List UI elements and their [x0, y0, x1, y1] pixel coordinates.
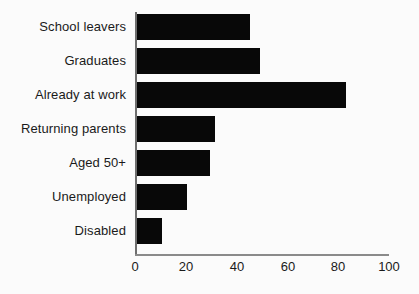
bar-row: Graduates [0, 48, 419, 74]
bar-row: School leavers [0, 14, 419, 40]
bar-already-at-work [137, 82, 346, 108]
bar-row: Returning parents [0, 116, 419, 142]
bar-graduates [137, 48, 260, 74]
x-axis-ticks: 0 20 40 60 80 100 [0, 258, 419, 280]
x-tick-label: 20 [163, 258, 209, 276]
bar-school-leavers [137, 14, 250, 40]
x-tick-label: 40 [214, 258, 260, 276]
bar-row: Already at work [0, 82, 419, 108]
category-label-aged-50-plus: Aged 50+ [0, 150, 126, 176]
bar-chart: School leavers Graduates Already at work… [0, 0, 419, 294]
x-tick-label: 0 [112, 258, 158, 276]
bar-row: Unemployed [0, 184, 419, 210]
bar-aged-50-plus [137, 150, 210, 176]
bar-row: Disabled [0, 218, 419, 244]
bar-returning-parents [137, 116, 215, 142]
bar-unemployed [137, 184, 187, 210]
category-label-school-leavers: School leavers [0, 14, 126, 40]
x-tick-label: 60 [265, 258, 311, 276]
category-label-already-at-work: Already at work [0, 82, 126, 108]
category-label-unemployed: Unemployed [0, 184, 126, 210]
x-tick-label: 80 [315, 258, 361, 276]
bars-layer: School leavers Graduates Already at work… [0, 0, 419, 294]
bar-row: Aged 50+ [0, 150, 419, 176]
x-tick-label: 100 [366, 258, 412, 276]
category-label-graduates: Graduates [0, 48, 126, 74]
bar-disabled [137, 218, 162, 244]
category-label-returning-parents: Returning parents [0, 116, 126, 142]
category-label-disabled: Disabled [0, 218, 126, 244]
